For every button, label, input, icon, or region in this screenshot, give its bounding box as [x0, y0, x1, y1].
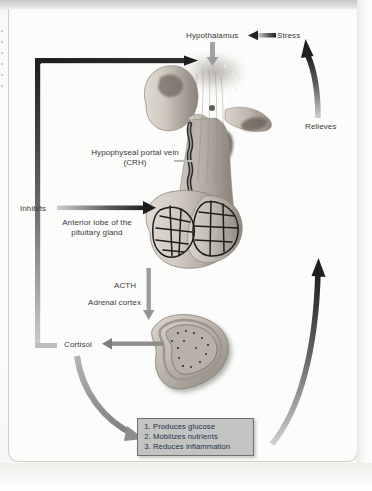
label-acth: ACTH — [114, 281, 136, 291]
label-hypophyseal-portal-vein: Hypophyseal portal vein (CRH) — [86, 148, 184, 167]
relieves-upper-arrow — [301, 39, 318, 118]
label-hypothalamus: Hypothalamus — [186, 31, 238, 41]
label-adrenal-cortex: Adrenal cortex — [88, 298, 141, 308]
diagram-figure: Hypothalamus Stress Relieves Hypophyseal… — [0, 0, 372, 491]
cortisol-effects-arrow — [77, 356, 144, 441]
list-item: Mobilizes nutrients — [153, 432, 253, 442]
relieves-lower-arrow — [272, 258, 326, 444]
list-item: Reduces inflammation — [153, 442, 253, 452]
list-item: Produces glucose — [153, 422, 253, 432]
cortisol-effects-box: Produces glucose Mobilizes nutrients Red… — [137, 418, 254, 456]
cortisol-effects-list: Produces glucose Mobilizes nutrients Red… — [138, 419, 253, 452]
acth-arrow — [143, 268, 154, 320]
inhibits-arrow — [57, 201, 156, 215]
cortisol-arrow — [102, 338, 164, 349]
label-inhibits: Inhibits — [20, 204, 46, 214]
label-stress: Stress — [277, 31, 300, 41]
label-cortisol: Cortisol — [64, 340, 92, 350]
hypothalamus-down-arrow — [207, 42, 219, 66]
stress-to-hypothalamus-arrow — [248, 31, 276, 41]
label-anterior-pituitary-lobe: Anterior lobe of the pituitary gland — [47, 218, 147, 237]
label-relieves: Relieves — [305, 122, 336, 132]
